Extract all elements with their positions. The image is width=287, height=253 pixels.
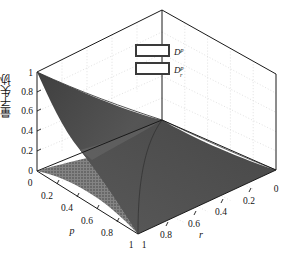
x-tick: 1 xyxy=(129,240,134,250)
z-tick: 0.8 xyxy=(21,87,33,97)
legend-label-2-sup: p xyxy=(180,65,184,71)
z-axis-tick-labels: 1 0.8 0.6 0.4 0.2 0 xyxy=(21,68,33,176)
z-tick: 0 xyxy=(28,166,33,176)
z-tick: 1 xyxy=(28,68,33,78)
x-tick: 0.4 xyxy=(61,203,73,213)
y-tick: 0.2 xyxy=(243,196,255,206)
y-tick: 0.6 xyxy=(188,219,200,229)
legend-swatch-1[interactable] xyxy=(136,45,169,56)
y-axis-label: r xyxy=(199,229,203,240)
legend-swatch-2[interactable] xyxy=(136,63,169,74)
x-tick: 0.8 xyxy=(101,228,113,238)
quantum-discord-surface-plot: 量子失协 xyxy=(0,0,287,253)
plot-canvas: 1 0.8 0.6 0.4 0.2 0 0 0.2 0.4 0.6 0.8 1 … xyxy=(0,0,287,253)
y-tick: 1 xyxy=(142,240,147,250)
y-tick: 0.4 xyxy=(215,207,227,217)
x-tick: 0.6 xyxy=(81,216,93,226)
y-tick: 0.8 xyxy=(160,230,172,240)
x-tick: 0.2 xyxy=(41,191,53,201)
legend-label-1-sup: p xyxy=(180,47,184,53)
y-tick: 0 xyxy=(274,184,279,194)
x-axis-label: p xyxy=(69,225,75,236)
x-tick: 0 xyxy=(28,178,33,188)
z-tick: 0.4 xyxy=(21,126,33,136)
z-tick: 0.6 xyxy=(21,106,33,116)
z-tick: 0.2 xyxy=(21,146,33,156)
